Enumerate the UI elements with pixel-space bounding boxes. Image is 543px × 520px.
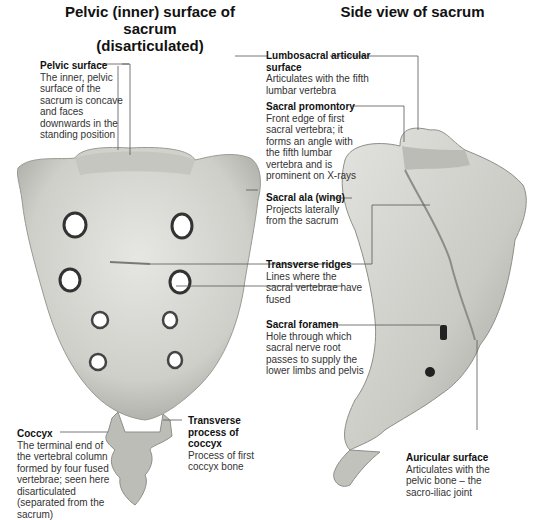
label-desc: The terminal end of the vertebral column…	[17, 440, 115, 520]
title-line-2: (disarticulated)	[96, 37, 204, 54]
label-auricular-surface: Auricular surface Articulates with the p…	[406, 452, 496, 498]
label-lumbosacral-articular-surface: Lumbosacral articular surface Articulate…	[266, 50, 376, 96]
label-title: Pelvic surface	[40, 60, 130, 72]
sacrum-side-view	[334, 128, 527, 486]
label-title: Lumbosacral articular surface	[266, 50, 376, 73]
label-sacral-ala: Sacral ala (wing) Projects laterally fro…	[266, 192, 346, 227]
label-pelvic-surface: Pelvic surface The inner, pelvic surface…	[40, 60, 130, 141]
label-desc: Process of first coccyx bone	[188, 450, 258, 473]
label-desc: Projects laterally from the sacrum	[266, 204, 346, 227]
label-title: Transverse process of coccyx	[188, 415, 258, 450]
label-desc: The inner, pelvic surface of the sacrum …	[40, 72, 130, 141]
label-title: Transverse ridges	[266, 259, 366, 271]
label-coccyx: Coccyx The terminal end of the vertebral…	[17, 428, 115, 520]
label-desc: Articulates with the pelvic bone – the s…	[406, 464, 496, 499]
title-side-view: Side view of sacrum	[320, 3, 505, 20]
title-line-1: Pelvic (inner) surface of sacrum	[65, 3, 235, 37]
label-transverse-process-of-coccyx: Transverse process of coccyx Process of …	[188, 415, 258, 473]
label-desc: Front edge of first sacral vertebra; it …	[266, 113, 362, 182]
label-desc: Hole through which sacral nerve root pas…	[266, 331, 364, 377]
label-title: Sacral ala (wing)	[266, 192, 346, 204]
label-sacral-foramen: Sacral foramen Hole through which sacral…	[266, 319, 364, 377]
label-desc: Lines where the sacral vertebrae have fu…	[266, 271, 366, 306]
coccyx-illustration	[106, 412, 172, 505]
label-title: Auricular surface	[406, 452, 496, 464]
sacrum-front-view	[17, 147, 260, 420]
label-sacral-promontory: Sacral promontory Front edge of first sa…	[266, 101, 362, 182]
label-desc: Articulates with the fifth lumbar verteb…	[266, 73, 376, 96]
label-title: Coccyx	[17, 428, 115, 440]
label-title: Sacral foramen	[266, 319, 364, 331]
title-pelvic-surface-view: Pelvic (inner) surface of sacrum (disart…	[40, 3, 260, 54]
label-transverse-ridges: Transverse ridges Lines where the sacral…	[266, 259, 366, 305]
label-title: Sacral promontory	[266, 101, 362, 113]
